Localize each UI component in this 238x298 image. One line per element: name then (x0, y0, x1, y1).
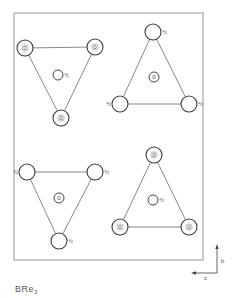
height-label-fraction: ½ (64, 72, 69, 78)
c-axis-arrowhead-icon (191, 271, 196, 274)
bond-line (157, 39, 186, 97)
height-label-fraction: ½ (106, 101, 111, 107)
axis-indicator: b c (191, 244, 225, 281)
bond-line (157, 162, 185, 220)
formula-subscript: 3 (34, 289, 38, 295)
height-label-fraction: ½ (159, 197, 164, 203)
bond-line (123, 39, 149, 96)
height-label-fraction: ½ (68, 238, 73, 244)
rhenium-atom-icon (145, 24, 161, 40)
crystal-structure-diagram: 000½½½½0½½½0000½ b c BRe3 (0, 0, 238, 298)
projection-diagram: 000½½½½0½½½0000½ b c BRe3 (0, 0, 238, 298)
bond-line (29, 55, 58, 111)
bond-line (30, 179, 55, 233)
rhenium-atom-icon (112, 96, 128, 112)
rhenium-atom-icon (181, 96, 197, 112)
rhenium-triangles: 000½½½½0½½½0000½ (13, 24, 203, 249)
triangle-bottom-left: ½½½0 (13, 164, 109, 249)
b-axis-arrowhead-icon (215, 244, 218, 249)
bond-line (63, 179, 92, 234)
unit-cell-frame (14, 13, 203, 260)
triangle-top-left: 000½ (17, 39, 103, 126)
compound-formula: BRe3 (15, 284, 38, 295)
boron-atom-icon (53, 70, 63, 80)
boron-atom-icon (148, 195, 158, 205)
rhenium-atom-icon (87, 164, 103, 180)
triangle-bottom-right: 000½ (112, 147, 197, 235)
bond-line (123, 162, 150, 220)
height-label-fraction: ½ (104, 169, 109, 175)
triangle-top-right: ½½½0 (106, 24, 203, 112)
bond-line (64, 54, 91, 111)
rhenium-atom-icon (19, 164, 35, 180)
height-label-fraction: ½ (162, 29, 167, 35)
height-label-fraction: ½ (13, 169, 18, 175)
c-axis-label: c (204, 275, 207, 281)
b-axis-label: b (221, 258, 225, 264)
formula-main: BRe (15, 284, 34, 294)
bond-line (33, 47, 87, 48)
rhenium-atom-icon (51, 233, 67, 249)
